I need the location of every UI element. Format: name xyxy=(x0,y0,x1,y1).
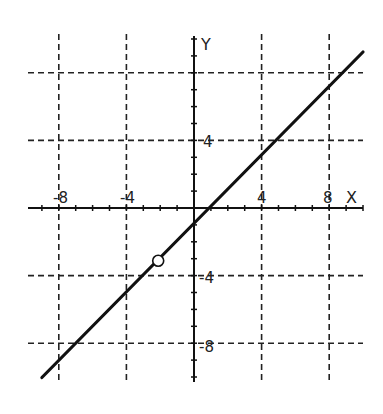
y-tick-label: 4 xyxy=(203,133,213,151)
y-tick-label: -8 xyxy=(199,338,214,356)
x-tick-label: -4 xyxy=(120,189,135,207)
chart: -8 -4 4 8 4 -4 -8 X Y xyxy=(0,0,383,414)
x-tick-label: 4 xyxy=(257,189,267,207)
x-axis-label: X xyxy=(346,188,357,207)
x-tick-label: 8 xyxy=(323,189,333,207)
open-circle-marker xyxy=(153,255,164,266)
series-lines xyxy=(42,52,363,378)
tick-labels: -8 -4 4 8 4 -4 -8 X Y xyxy=(53,35,357,356)
y-tick-label: -4 xyxy=(199,269,214,287)
x-tick-label: -8 xyxy=(53,189,68,207)
y-axis-label: Y xyxy=(200,35,211,54)
function-line xyxy=(42,52,363,378)
